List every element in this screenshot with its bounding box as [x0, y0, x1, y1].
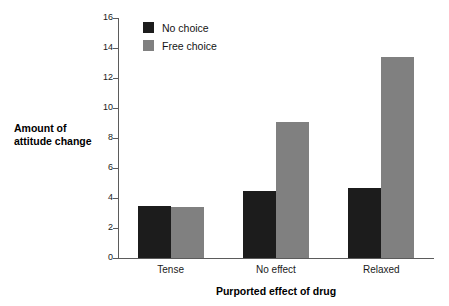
y-axis-tick-label: 2 — [80, 223, 113, 232]
y-axis-tick-label-text: 10 — [87, 103, 113, 112]
y-axis-tick-label: 6 — [80, 163, 113, 172]
y-axis-tick — [113, 48, 118, 49]
y-axis-tick-label: 4 — [80, 193, 113, 202]
x-axis-label-relaxed: Relaxed — [329, 264, 434, 276]
y-axis-tick-label-text: 0 — [87, 253, 113, 262]
y-axis-line — [118, 18, 119, 259]
x-axis-line — [118, 258, 434, 259]
y-axis-tick-label-text: 2 — [87, 223, 113, 232]
y-axis-tick — [113, 198, 118, 199]
legend-swatch-icon-free-choice — [143, 40, 154, 51]
y-axis-title: Amount of attitude change — [14, 122, 110, 148]
legend: No choice Free choice — [143, 20, 217, 56]
y-axis-tick — [113, 18, 118, 19]
bar-no-effect-no-choice — [243, 191, 276, 259]
bar-tense-no-choice — [138, 206, 171, 259]
legend-swatch-icon-no-choice — [143, 22, 154, 33]
y-axis-tick-label-text: 14 — [87, 43, 113, 52]
bar-relaxed-no-choice — [348, 188, 381, 258]
y-axis-tick-label-text: 6 — [87, 163, 113, 172]
y-axis-tick — [113, 258, 118, 259]
x-axis-label-no-effect: No effect — [223, 264, 328, 276]
legend-item-no-choice: No choice — [143, 20, 217, 35]
x-axis-label-tense: Tense — [118, 264, 223, 276]
y-axis-title-line-2: attitude change — [14, 135, 110, 148]
bar-relaxed-free-choice — [381, 57, 414, 258]
y-axis-tick-label-text: 4 — [87, 193, 113, 202]
bar-chart-plot: 0246810121416 TenseNo effectRelaxed Purp… — [0, 0, 449, 306]
y-axis-tick-label-text: 16 — [87, 13, 113, 22]
x-axis-title: Purported effect of drug — [118, 285, 434, 297]
legend-item-free-choice: Free choice — [143, 38, 217, 53]
y-axis-tick-label: 16 — [80, 13, 113, 22]
legend-label-no-choice: No choice — [162, 22, 209, 34]
y-axis-tick — [113, 168, 118, 169]
y-axis-tick — [113, 138, 118, 139]
legend-label-free-choice: Free choice — [162, 40, 217, 52]
y-axis-tick — [113, 228, 118, 229]
y-axis-tick-label: 0 — [80, 253, 113, 262]
y-axis-tick — [113, 78, 118, 79]
bar-tense-free-choice — [171, 207, 204, 258]
y-axis-tick — [113, 108, 118, 109]
chart-page: 0246810121416 TenseNo effectRelaxed Purp… — [0, 0, 449, 306]
y-axis-title-line-1: Amount of — [14, 122, 110, 135]
y-axis-tick-label: 14 — [80, 43, 113, 52]
y-axis-tick-label-text: 12 — [87, 73, 113, 82]
y-axis-tick-label: 12 — [80, 73, 113, 82]
bar-no-effect-free-choice — [276, 122, 309, 258]
y-axis-tick-label: 10 — [80, 103, 113, 112]
